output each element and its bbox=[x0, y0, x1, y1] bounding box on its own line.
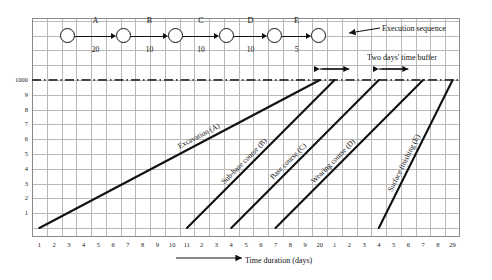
execution-sequence-annotation: Execution sequence bbox=[382, 24, 446, 33]
production-line-1 bbox=[39, 80, 319, 228]
production-line-5 bbox=[379, 80, 453, 228]
execution-sequence-callout-arrow bbox=[349, 28, 380, 33]
diagram-canvas: 1234567891000 12345678910112345678920123… bbox=[0, 0, 492, 280]
x-axis-title: Time duration (days) bbox=[245, 256, 312, 265]
production-line-2 bbox=[187, 80, 335, 228]
time-buffer-annotation: Two days' time buffer bbox=[367, 53, 437, 62]
